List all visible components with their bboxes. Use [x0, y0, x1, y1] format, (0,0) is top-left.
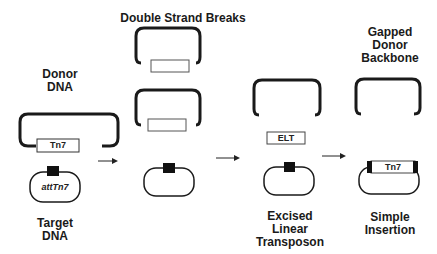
tn7-inserted-label: Tn7: [371, 162, 415, 172]
label-double-strand-breaks: Double Strand Breaks: [118, 12, 248, 25]
elt-label: ELT: [267, 133, 305, 143]
label-line: DNA: [25, 230, 85, 243]
attTn7-site-3: [284, 162, 295, 172]
arrow-head-2: [234, 155, 240, 161]
label-line: DNA: [30, 81, 90, 94]
tn7-label: Tn7: [37, 140, 79, 150]
label-line: Transposon: [255, 236, 325, 249]
label-line: Backbone: [355, 52, 425, 65]
gapped-backbone-2: [356, 79, 420, 114]
arrow-head-3: [340, 153, 346, 159]
label-gapped-donor-backbone: Gapped Donor Backbone: [355, 26, 425, 65]
attTn7-site: [47, 166, 59, 176]
dsb-plasmid-1: [136, 28, 200, 63]
label-excised-linear-transposon: Excised Linear Transposon: [255, 210, 325, 249]
dsb-insert-2: [148, 119, 186, 131]
dsb-insert-1: [151, 60, 189, 72]
label-donor-dna: Donor DNA: [30, 68, 90, 94]
attTn7-site-2: [163, 163, 175, 173]
label-line: Insertion: [355, 224, 425, 237]
attTn7-label: attTn7: [30, 182, 80, 192]
arrow-head-1: [112, 158, 118, 164]
gapped-backbone-1: [254, 80, 320, 115]
label-simple-insertion: Simple Insertion: [355, 211, 425, 237]
label-line: Double Strand Breaks: [118, 12, 248, 25]
label-target-dna: Target DNA: [25, 217, 85, 243]
